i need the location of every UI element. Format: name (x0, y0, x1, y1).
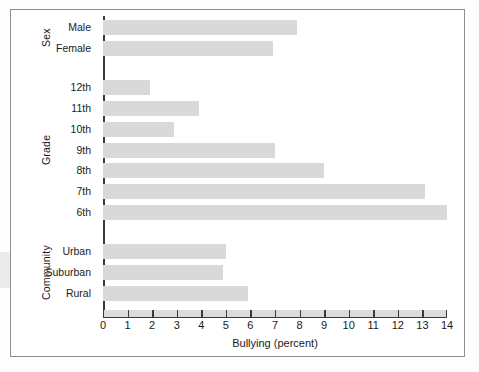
axis-tick-label: 0 (100, 319, 106, 331)
axis-tick (152, 310, 153, 318)
x-axis-label: Bullying (percent) (103, 337, 447, 349)
bar (103, 184, 425, 199)
axis-tick (177, 310, 178, 318)
axis-tick-label: 5 (223, 319, 229, 331)
category-label: 12th (71, 80, 91, 95)
axis-tick-label: 3 (174, 319, 180, 331)
category-label: Female (56, 41, 91, 56)
bar (103, 205, 447, 220)
group-label-sex: Sex (40, 29, 52, 48)
category-label: Urban (62, 244, 91, 259)
axis-tick-label: 4 (198, 319, 204, 331)
axis-tick (422, 310, 423, 318)
bar (103, 163, 324, 178)
bar (103, 244, 226, 259)
category-label: 10th (71, 122, 91, 137)
group-label-community: Community (40, 245, 52, 300)
category-label: 9th (76, 143, 91, 158)
category-label: 7th (76, 184, 91, 199)
axis-tick-label: 1 (125, 319, 131, 331)
axis-tick (349, 310, 350, 318)
bar (103, 20, 297, 35)
axis-tick (201, 310, 202, 318)
axis-tick (300, 310, 301, 318)
axis-tick (128, 310, 129, 318)
value-axis-tick-labels: 01234567891011121314 (103, 319, 447, 335)
plot-area (103, 16, 447, 304)
bar (103, 265, 223, 280)
axis-tick-label: 10 (343, 319, 355, 331)
axis-tick (103, 310, 104, 318)
axis-tick (373, 310, 374, 318)
category-label: 6th (76, 205, 91, 220)
axis-tick (250, 310, 251, 318)
bar (103, 122, 174, 137)
bar (103, 101, 199, 116)
axis-tick-label: 9 (321, 319, 327, 331)
axis-tick-label: 8 (297, 319, 303, 331)
category-label: 8th (76, 163, 91, 178)
value-axis (103, 310, 447, 318)
bar (103, 80, 150, 95)
axis-tick-label: 7 (272, 319, 278, 331)
axis-tick-label: 11 (368, 319, 379, 331)
bar-chart-figure: MaleFemale12th11th10th9th8th7th6thUrbanS… (0, 0, 479, 372)
bar (103, 41, 273, 56)
bar (103, 143, 275, 158)
axis-tick-label: 2 (149, 319, 155, 331)
axis-tick-label: 12 (392, 319, 404, 331)
bar (103, 286, 248, 301)
axis-tick (275, 310, 276, 318)
axis-tick-label: 14 (441, 319, 453, 331)
axis-tick (324, 310, 325, 318)
category-label: Rural (66, 286, 91, 301)
category-label: Male (68, 20, 91, 35)
axis-tick (398, 310, 399, 318)
group-label-grade: Grade (40, 135, 52, 165)
axis-tick-label: 6 (247, 319, 253, 331)
category-label: Suburban (45, 265, 91, 280)
axis-tick (446, 310, 447, 318)
category-label: 11th (71, 101, 91, 116)
axis-tick (226, 310, 227, 318)
axis-tick-label: 13 (416, 319, 428, 331)
